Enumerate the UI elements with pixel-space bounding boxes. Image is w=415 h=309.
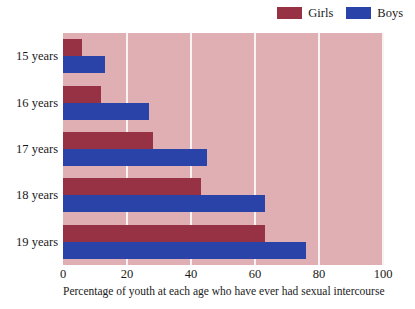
bar-boys-18-years: [63, 195, 265, 212]
plot-area: [63, 33, 383, 265]
bar-girls-18-years: [63, 178, 201, 195]
bar-girls-16-years: [63, 86, 101, 103]
chart-legend: Girls Boys: [277, 7, 403, 20]
y-tick-label-19-years: 19 years: [16, 236, 58, 249]
bar-boys-16-years: [63, 103, 149, 120]
legend-entry-boys: Boys: [346, 7, 403, 20]
y-tick-label-16-years: 16 years: [16, 97, 58, 110]
bar-boys-15-years: [63, 56, 105, 73]
y-axis-labels: 15 years16 years17 years18 years19 years: [0, 33, 58, 265]
y-tick-label-15-years: 15 years: [16, 50, 58, 63]
legend-label-girls: Girls: [308, 7, 333, 20]
x-tick-label-60: 60: [249, 268, 262, 281]
legend-label-boys: Boys: [377, 7, 403, 20]
gridline-100: [382, 33, 384, 265]
bar-boys-17-years: [63, 149, 207, 166]
x-tick-label-100: 100: [374, 268, 393, 281]
bar-boys-19-years: [63, 242, 306, 259]
x-tick-label-0: 0: [60, 268, 66, 281]
bar-chart: Girls Boys 15 years16 years17 years18 ye…: [0, 0, 415, 309]
x-tick-label-80: 80: [313, 268, 326, 281]
legend-entry-girls: Girls: [277, 7, 333, 20]
x-tick-label-40: 40: [185, 268, 198, 281]
legend-swatch-boys: [346, 7, 371, 19]
x-axis-title: Percentage of youth at each age who have…: [63, 286, 383, 298]
legend-swatch-girls: [277, 7, 302, 19]
x-tick-label-20: 20: [121, 268, 134, 281]
bar-girls-19-years: [63, 225, 265, 242]
y-tick-label-18-years: 18 years: [16, 189, 58, 202]
bar-girls-17-years: [63, 132, 153, 149]
bar-girls-15-years: [63, 39, 82, 56]
y-tick-label-17-years: 17 years: [16, 143, 58, 156]
x-axis-labels: 020406080100: [0, 268, 415, 284]
gridline-80: [318, 33, 320, 265]
